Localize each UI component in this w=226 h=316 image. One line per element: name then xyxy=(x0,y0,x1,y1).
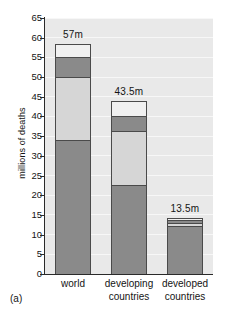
bar-segment xyxy=(111,101,147,116)
y-tick-mark xyxy=(40,274,44,275)
bar-segment xyxy=(167,218,203,221)
x-category-label: developingcountries xyxy=(105,277,153,303)
bar-total-label: 57m xyxy=(63,29,83,40)
x-category-label: developedcountries xyxy=(162,277,208,303)
bar-world[interactable] xyxy=(55,18,91,274)
x-label-line: developed xyxy=(162,277,208,290)
y-tick-label: 30 xyxy=(18,151,42,161)
y-tick-mark xyxy=(40,57,44,58)
bar-segment xyxy=(55,140,91,274)
y-tick-label: 55 xyxy=(18,53,42,63)
y-tick-label: 65 xyxy=(18,13,42,23)
x-label-line: countries xyxy=(162,290,208,303)
bar-developing-countries[interactable] xyxy=(111,18,147,274)
figure-caption: (a) xyxy=(10,293,22,304)
y-tick-mark xyxy=(40,116,44,117)
y-tick-mark xyxy=(40,215,44,216)
x-axis-spine xyxy=(44,274,213,275)
y-tick-mark xyxy=(40,235,44,236)
bar-total-label: 43.5m xyxy=(115,86,144,97)
y-tick-label: 5 xyxy=(18,250,42,260)
bar-segment xyxy=(55,44,91,56)
y-tick-mark xyxy=(40,156,44,157)
y-tick-label: 20 xyxy=(18,190,42,200)
y-tick-label: 10 xyxy=(18,230,42,240)
y-tick-label: 40 xyxy=(18,112,42,122)
x-axis-category-labels: worlddevelopingcountriesdevelopedcountri… xyxy=(45,277,213,311)
y-axis-spine xyxy=(44,17,45,275)
x-label-line: countries xyxy=(105,290,153,303)
y-axis-tick-labels: 05101520253035404550556065 xyxy=(18,18,42,274)
x-label-line: developing xyxy=(105,277,153,290)
x-category-label: world xyxy=(61,277,85,290)
y-tick-label: 50 xyxy=(18,72,42,82)
bar-segment xyxy=(167,223,203,226)
y-tick-label: 25 xyxy=(18,171,42,181)
y-tick-label: 15 xyxy=(18,210,42,220)
bar-developed-countries[interactable] xyxy=(167,18,203,274)
y-tick-label: 60 xyxy=(18,33,42,43)
y-tick-mark xyxy=(40,176,44,177)
y-tick-label: 45 xyxy=(18,92,42,102)
bar-segment xyxy=(111,116,147,131)
bar-total-label: 13.5m xyxy=(171,203,200,214)
plot-area xyxy=(45,18,213,274)
y-tick-label: 35 xyxy=(18,131,42,141)
y-tick-mark xyxy=(40,18,44,19)
bar-segment xyxy=(111,131,147,184)
y-tick-mark xyxy=(40,77,44,78)
figure-panel: millions of deaths 051015202530354045505… xyxy=(0,0,226,316)
y-tick-mark xyxy=(40,136,44,137)
y-tick-label: 0 xyxy=(18,269,42,279)
y-tick-mark xyxy=(40,97,44,98)
bar-segment xyxy=(55,77,91,140)
y-tick-mark xyxy=(40,254,44,255)
y-tick-mark xyxy=(40,195,44,196)
y-tick-mark xyxy=(40,38,44,39)
x-label-line: world xyxy=(61,277,85,290)
bar-segment xyxy=(167,226,203,274)
bar-segment xyxy=(55,57,91,77)
bar-segment xyxy=(167,220,203,222)
bar-segment xyxy=(111,185,147,274)
